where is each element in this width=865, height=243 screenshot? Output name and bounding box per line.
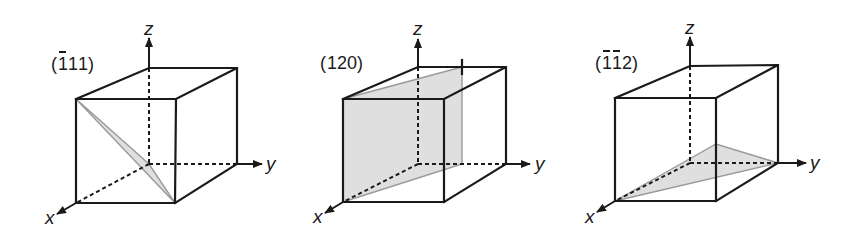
cube-top-face: [615, 65, 778, 98]
digit-k: 1: [612, 53, 622, 73]
svg-text:(: (: [51, 54, 57, 74]
miller-planes-diagram: z y x ( 1 1 1 ) z y x: [0, 0, 865, 243]
digit-h: 1: [58, 54, 68, 74]
z-axis-label: z: [143, 18, 154, 39]
cube-right-edges: [175, 68, 237, 203]
svg-text:): ): [632, 53, 638, 73]
y-axis-label: y: [808, 152, 821, 173]
y-axis-label: y: [533, 153, 546, 174]
cube-panel-1: z y x ( 1 1 1 ): [44, 18, 277, 228]
x-axis-arrow: [597, 201, 615, 212]
x-axis-arrow: [325, 202, 343, 213]
miller-index-label: ( 1 2 0 ): [320, 53, 363, 73]
y-axis-label: y: [264, 153, 277, 174]
z-axis-label: z: [412, 18, 423, 39]
digit-l: 1: [78, 54, 88, 74]
digit-k: 2: [337, 53, 347, 73]
digit-l: 0: [347, 53, 357, 73]
cube-panel-2: z y x ( 1 2 0 ): [312, 18, 546, 227]
svg-text:(: (: [320, 53, 326, 73]
x-axis-label: x: [584, 206, 596, 227]
cube-right-edges: [716, 65, 778, 201]
x-axis-label: x: [312, 206, 324, 227]
digit-l: 2: [622, 53, 632, 73]
digit-h: 1: [327, 53, 337, 73]
digit-k: 1: [68, 54, 78, 74]
x-axis-label: x: [44, 207, 56, 228]
cube-top-face: [76, 68, 237, 99]
digit-h: 1: [602, 53, 612, 73]
z-axis-label: z: [684, 17, 695, 38]
miller-index-label: ( 1 1 1 ): [51, 52, 94, 74]
miller-index-label: ( 1 1 2 ): [595, 51, 638, 73]
svg-text:(: (: [595, 53, 601, 73]
svg-text:): ): [357, 53, 363, 73]
x-axis-arrow: [57, 203, 76, 214]
plane-shape: [76, 99, 175, 203]
cube-panel-3: z y x ( 1 1 2 ): [584, 17, 821, 227]
plane-shape: [615, 144, 778, 201]
hidden-edge: [76, 164, 149, 203]
svg-text:): ): [88, 54, 94, 74]
